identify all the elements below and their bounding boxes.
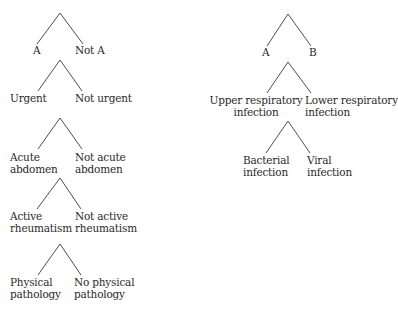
label-viral-infection: Viral infection: [307, 154, 352, 178]
label-line: Lower respiratory: [305, 94, 398, 106]
branch-urgent: [38, 60, 82, 91]
label-line: infection: [307, 166, 352, 178]
branch-infection-type: [266, 121, 310, 153]
label-line: abdomen: [10, 163, 58, 175]
branch-acute-abdomen: [38, 118, 82, 149]
label-line: abdomen: [75, 163, 126, 175]
label-lower-respiratory-infection: Lower respiratory infection: [305, 94, 398, 118]
label-line: Bacterial: [243, 154, 290, 166]
label-line: infection: [208, 106, 304, 118]
label-line: Not A: [75, 44, 105, 56]
label-physical-pathology: Physical pathology: [10, 276, 61, 300]
label-a: A: [33, 44, 40, 56]
label-right-a: A: [262, 46, 269, 58]
label-line: A: [33, 44, 40, 56]
label-line: Not urgent: [75, 92, 132, 104]
label-line: Not active: [75, 210, 137, 222]
label-line: pathology: [10, 288, 61, 300]
label-line: No physical: [74, 276, 134, 288]
label-not-a: Not A: [75, 44, 105, 56]
label-line: rheumatism: [75, 222, 137, 234]
branch-physical-pathology: [38, 244, 81, 275]
label-line: Urgent: [10, 92, 47, 104]
label-line: pathology: [74, 288, 134, 300]
label-right-b: B: [309, 46, 317, 58]
label-line: Physical: [10, 276, 61, 288]
label-urgent: Urgent: [10, 92, 47, 104]
label-line: infection: [305, 106, 398, 118]
label-line: Not acute: [75, 151, 126, 163]
branch-active-rheumatism: [37, 178, 81, 209]
label-not-urgent: Not urgent: [75, 92, 132, 104]
label-not-acute-abdomen: Not acute abdomen: [75, 151, 126, 175]
label-bacterial-infection: Bacterial infection: [243, 154, 290, 178]
branch-a-not-a: [37, 13, 83, 44]
label-line: B: [309, 46, 317, 58]
label-line: A: [262, 46, 269, 58]
label-line: Upper respiratory: [208, 94, 304, 106]
label-line: Acute: [10, 151, 58, 163]
label-line: infection: [243, 166, 290, 178]
label-line: Active: [10, 210, 72, 222]
label-line: Viral: [307, 154, 352, 166]
label-active-rheumatism: Active rheumatism: [10, 210, 72, 234]
label-not-active-rheumatism: Not active rheumatism: [75, 210, 137, 234]
branch-a-b: [267, 14, 311, 46]
label-upper-respiratory-infection: Upper respiratory infection: [208, 94, 304, 118]
label-acute-abdomen: Acute abdomen: [10, 151, 58, 175]
label-line: rheumatism: [10, 222, 72, 234]
branch-respiratory: [267, 62, 311, 93]
label-no-physical-pathology: No physical pathology: [74, 276, 134, 300]
